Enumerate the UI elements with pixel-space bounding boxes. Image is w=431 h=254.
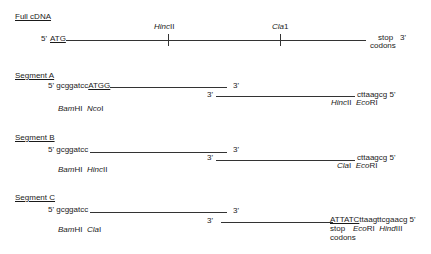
- segment-a-right-sites: HincII EcoRI: [331, 98, 378, 107]
- segment-a-bottom-3prime: 3': [207, 90, 213, 99]
- segment-a-top-line: [110, 87, 227, 88]
- segment-c-bottom-line: [221, 222, 333, 223]
- segment-a-bottom-line: [216, 96, 355, 97]
- clai-site-label: Cla1: [272, 22, 288, 31]
- segment-c-right-sites: EcoRI HindIII: [353, 224, 402, 233]
- segment-b-bottom-3prime: 3': [207, 153, 213, 162]
- hincii-site-label: HincII: [154, 22, 174, 31]
- hincii-tick: [168, 34, 169, 46]
- full-cdna-start-codon: ATG: [50, 34, 66, 43]
- full-cdna-3prime: 3': [400, 33, 406, 42]
- segment-b-top-3prime: 3': [233, 145, 239, 154]
- segment-b-bottom-line: [216, 160, 355, 161]
- segment-b-left-sites: BamHI HincII: [58, 165, 107, 174]
- segment-b-right-sites: ClaI EcoRI: [337, 161, 378, 170]
- segment-c-left-sites: BamHI ClaI: [58, 225, 101, 234]
- clai-tick: [280, 34, 281, 46]
- segment-c-stop-label: stop: [330, 224, 345, 233]
- full-cdna-header: Full cDNA: [15, 12, 51, 21]
- codons-label: codons: [370, 41, 396, 50]
- segment-c-header: Segment C: [15, 193, 55, 202]
- full-cdna-line: [66, 40, 366, 41]
- segment-a-top-3prime: 3': [233, 81, 239, 90]
- segment-c-top-3prime: 3': [233, 206, 239, 215]
- segment-c-top-line: [90, 212, 227, 213]
- segment-b-top-strand: 5' gcggatcc: [48, 145, 88, 154]
- segment-c-top-strand: 5' gcggatcc: [48, 205, 88, 214]
- segment-b-header: Segment B: [15, 133, 55, 142]
- segment-c-bottom-seq: ATTATCttaagttcgaacg 5': [330, 215, 416, 224]
- full-cdna-5prime: 5': [41, 34, 47, 43]
- segment-c-codons-label: codons: [330, 233, 356, 242]
- segment-a-header: Segment A: [15, 71, 54, 80]
- segment-a-left-sites: BamHI NcoI: [58, 104, 103, 113]
- segment-c-bottom-3prime: 3': [207, 216, 213, 225]
- segment-a-top-strand: 5' gcggatccATGG: [48, 81, 110, 90]
